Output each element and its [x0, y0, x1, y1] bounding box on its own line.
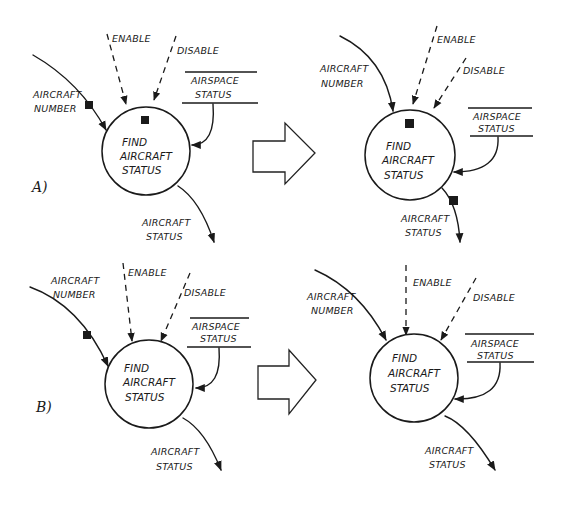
enable-label: ENABLE [112, 33, 151, 44]
aircraft-number-label-2: NUMBER [34, 103, 77, 114]
process-label-3: STATUS [390, 382, 430, 394]
output-label-2: STATUS [146, 231, 183, 242]
aircraft-number-label-1: AIRCRAFT [50, 275, 100, 286]
diagram-canvas: AIRCRAFT NUMBER ENABLE DISABLE AIRSPACE … [0, 0, 561, 505]
marker-square-icon [83, 331, 91, 339]
process-label-2: AIRCRAFT [387, 367, 441, 379]
store-flow [454, 137, 498, 172]
disable-flow [434, 58, 466, 108]
enable-label: ENABLE [437, 34, 476, 45]
panel-b-after: AIRCRAFT NUMBER ENABLE DISABLE AIRSPACE … [306, 265, 534, 470]
panel-b-before: AIRCRAFT NUMBER ENABLE DISABLE AIRSPACE … [30, 263, 251, 472]
disable-label: DISABLE [184, 287, 226, 298]
enable-flow [413, 26, 437, 104]
output-label-1: AIRCRAFT [150, 446, 200, 457]
store-label-2: STATUS [200, 333, 237, 344]
store-flow [455, 363, 500, 399]
disable-label: DISABLE [473, 292, 515, 303]
output-label-2: STATUS [429, 459, 466, 470]
disable-flow [161, 273, 190, 341]
enable-label: ENABLE [413, 277, 452, 288]
marker-square-icon [449, 196, 458, 205]
enable-label: ENABLE [128, 267, 167, 278]
process-label-3: STATUS [125, 391, 165, 403]
aircraft-number-label-1: AIRCRAFT [319, 63, 369, 74]
disable-label: DISABLE [177, 45, 219, 56]
process-label-2: AIRCRAFT [122, 376, 176, 388]
enable-flow [107, 34, 126, 104]
aircraft-number-label-1: AIRCRAFT [32, 89, 82, 100]
transform-arrow-icon [253, 123, 315, 184]
store-label-1: AIRSPACE [472, 111, 521, 122]
aircraft-number-label-2: NUMBER [311, 305, 354, 316]
output-label-1: AIRCRAFT [141, 217, 191, 228]
aircraft-number-label-2: NUMBER [321, 78, 364, 89]
marker-square-icon [405, 119, 414, 128]
store-label-1: AIRSPACE [190, 75, 239, 86]
process-label-1: FIND [392, 352, 417, 364]
process-label-1: FIND [124, 362, 149, 374]
output-label-1: AIRCRAFT [424, 445, 474, 456]
store-flow [196, 348, 219, 388]
disable-flow [154, 36, 176, 100]
transform-arrow-icon [258, 350, 316, 414]
marker-square-icon [141, 116, 149, 124]
process-label-3: STATUS [384, 169, 424, 181]
panel-label-b: B) [35, 399, 52, 415]
output-label-1: AIRCRAFT [400, 213, 450, 224]
output-label-2: STATUS [156, 461, 193, 472]
process-label-1: FIND [386, 140, 411, 152]
process-label-2: AIRCRAFT [381, 154, 435, 166]
disable-label: DISABLE [463, 65, 505, 76]
process-label-3: STATUS [122, 164, 162, 176]
output-label-2: STATUS [405, 227, 442, 238]
store-flow [192, 104, 213, 145]
store-label-2: STATUS [477, 350, 514, 361]
store-label-2: STATUS [478, 123, 515, 134]
aircraft-number-label-1: AIRCRAFT [306, 291, 356, 302]
panel-label-a: A) [30, 179, 48, 195]
store-label-1: AIRSPACE [191, 321, 240, 332]
panel-a-before: AIRCRAFT NUMBER ENABLE DISABLE AIRSPACE … [30, 33, 258, 242]
aircraft-status-output-flow [178, 186, 214, 242]
marker-square-icon [85, 101, 93, 109]
process-label-2: AIRCRAFT [119, 150, 173, 162]
store-label-1: AIRSPACE [470, 338, 519, 349]
aircraft-number-label-2: NUMBER [53, 289, 96, 300]
store-label-2: STATUS [195, 89, 232, 100]
panel-a-after: AIRCRAFT NUMBER ENABLE DISABLE AIRSPACE … [319, 26, 533, 242]
process-label-1: FIND [122, 136, 147, 148]
